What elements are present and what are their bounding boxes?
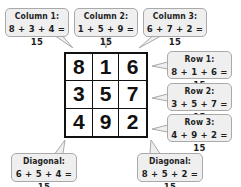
magic-square-grid: 8 1 6 3 5 7 4 9 2 bbox=[64, 52, 148, 138]
grid-cell: 5 bbox=[93, 81, 120, 108]
grid-cell: 4 bbox=[66, 109, 93, 136]
grid-cell: 1 bbox=[93, 54, 120, 81]
callout-diagonal-right: Diagonal: 8 + 5 + 2 = 15 bbox=[137, 153, 203, 182]
callout-expression: 8 + 5 + 2 = 15 bbox=[138, 167, 202, 187]
magic-square-diagram: Column 1: 8 + 3 + 4 = 15 Column 2: 1 + 5… bbox=[0, 0, 241, 187]
callout-title: Diagonal: bbox=[12, 156, 76, 167]
callout-title: Row 2: bbox=[168, 86, 231, 97]
grid-cell: 9 bbox=[93, 109, 120, 136]
callout-row-2: Row 2: 3 + 5 + 7 = 15 bbox=[167, 83, 232, 111]
callout-expression: 8 + 3 + 4 = 15 bbox=[6, 22, 68, 48]
callout-title: Row 1: bbox=[168, 54, 231, 65]
callout-row-1: Row 1: 8 + 1 + 6 = 15 bbox=[167, 51, 232, 79]
callout-expression: 6 + 7 + 2 = 15 bbox=[144, 22, 206, 48]
callout-title: Column 1: bbox=[6, 11, 68, 22]
callout-title: Column 3: bbox=[144, 11, 206, 22]
callout-expression: 4 + 9 + 2 = 15 bbox=[168, 128, 231, 154]
callout-column-2: Column 2: 1 + 5 + 9 = 15 bbox=[74, 8, 138, 37]
callout-title: Row 3: bbox=[168, 117, 231, 128]
callout-column-1: Column 1: 8 + 3 + 4 = 15 bbox=[5, 8, 69, 37]
callout-row-3: Row 3: 4 + 9 + 2 = 15 bbox=[167, 114, 232, 142]
callout-expression: 1 + 5 + 9 = 15 bbox=[75, 22, 137, 48]
callout-diagonal-left: Diagonal: 6 + 5 + 4 = 15 bbox=[11, 153, 77, 182]
grid-cell: 6 bbox=[119, 54, 146, 81]
callout-column-3: Column 3: 6 + 7 + 2 = 15 bbox=[143, 8, 207, 37]
grid-cell: 2 bbox=[119, 109, 146, 136]
callout-title: Column 2: bbox=[75, 11, 137, 22]
callout-expression: 6 + 5 + 4 = 15 bbox=[12, 167, 76, 187]
callout-title: Diagonal: bbox=[138, 156, 202, 167]
grid-cell: 8 bbox=[66, 54, 93, 81]
grid-cell: 7 bbox=[119, 81, 146, 108]
grid-cell: 3 bbox=[66, 81, 93, 108]
